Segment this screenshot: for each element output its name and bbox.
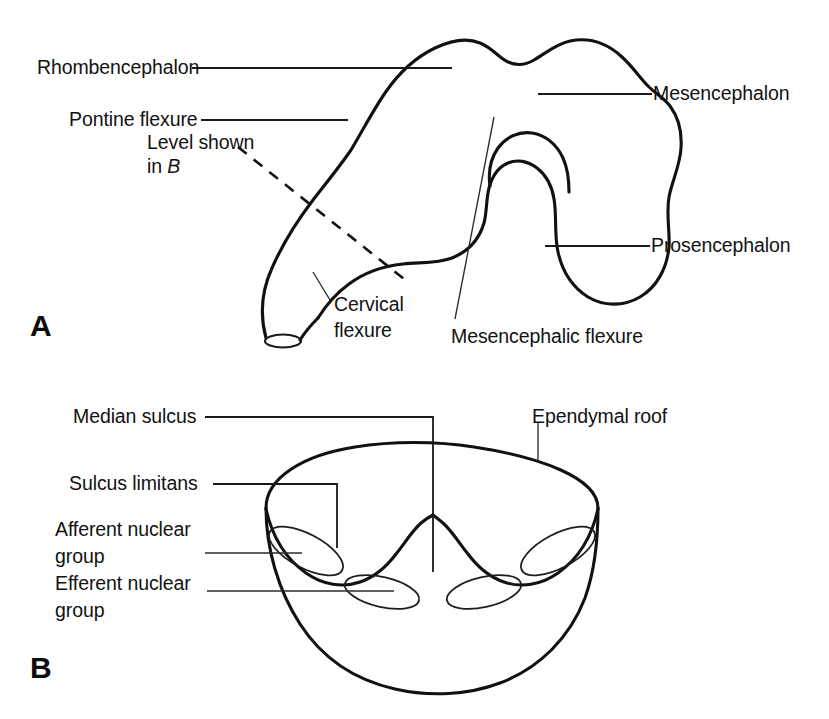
label-mesencephalon: Mesencephalon <box>653 82 789 106</box>
label-median-sulcus: Median sulcus <box>73 405 196 429</box>
neural-tube-caudal-edge <box>300 318 318 340</box>
label-prosencephalon: Prosencephalon <box>651 234 791 258</box>
panel-a-drawing <box>192 40 681 348</box>
label-efferent-nuclear-group-line1: Efferent nuclear <box>55 572 191 596</box>
label-level-shown-in-b: in B <box>147 155 180 179</box>
label-ependymal-roof: Ependymal roof <box>532 405 667 429</box>
label-level-shown-in-b-panel-ref: B <box>167 155 180 177</box>
panel-a-letter: A <box>30 311 52 341</box>
leader-mesencephalic-flexure <box>455 117 494 319</box>
label-afferent-nuclear-group-line2: group <box>55 545 104 569</box>
label-cervical-flexure-line1: Cervical <box>334 293 404 317</box>
label-level-shown-in-b-prefix: in <box>147 155 167 177</box>
panel-b-drawing <box>205 417 602 694</box>
embryonic-brain-outline <box>262 40 681 338</box>
efferent-nucleus-right-ellipse <box>444 569 525 615</box>
leader-level-shown-in-b <box>238 147 404 279</box>
efferent-nucleus-left-ellipse <box>342 569 423 615</box>
leader-cervical-flexure <box>313 272 330 300</box>
label-mesencephalic-flexure: Mesencephalic flexure <box>451 325 643 349</box>
label-pontine-flexure: Pontine flexure <box>69 108 198 132</box>
rhombencephalon-bowl-outline <box>266 508 598 694</box>
label-afferent-nuclear-group-line1: Afferent nuclear <box>55 518 191 542</box>
label-efferent-nuclear-group-line2: group <box>55 599 104 623</box>
afferent-nucleus-right-ellipse <box>514 517 602 586</box>
inner-ridge-right <box>433 509 598 585</box>
label-sulcus-limitans: Sulcus limitans <box>69 472 198 496</box>
neural-tube-lumen-ellipse <box>265 335 301 348</box>
inner-ridge-left <box>266 509 433 585</box>
label-rhombencephalon: Rhombencephalon <box>37 56 199 80</box>
figure-page: A Rhombencephalon Pontine flexure Level … <box>0 0 829 719</box>
label-level-shown: Level shown <box>147 131 254 155</box>
ependymal-roof-rim <box>266 443 598 509</box>
label-cervical-flexure-line2: flexure <box>334 319 392 343</box>
panel-b-letter: B <box>30 653 52 683</box>
